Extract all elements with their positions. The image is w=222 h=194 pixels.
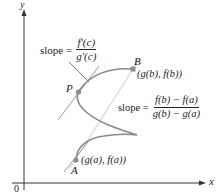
secant-slope-fraction: f(b) − f(a) g(b) − g(a) [152, 95, 201, 119]
point-b-marker [131, 67, 136, 72]
secant-slope-prefix: slope = [118, 102, 149, 113]
point-p-marker [76, 89, 81, 94]
tangent-annotation-pointer [69, 62, 89, 82]
tangent-slope-annotation: slope = f′(c) g′(c) [40, 37, 97, 62]
secant-slope-annotation: slope = f(b) − f(a) g(b) − g(a) [118, 95, 201, 119]
point-a-coordinates: (g(a), f(a)) [81, 155, 126, 166]
secant-slope-denominator: g(b) − g(a) [152, 108, 201, 120]
point-p-label: P [66, 83, 73, 94]
tangent-slope-denominator: g′(c) [75, 50, 97, 62]
origin-label: 0 [14, 184, 19, 194]
tangent-slope-prefix: slope = [40, 44, 72, 56]
y-axis-label: y [20, 0, 24, 10]
y-axis-arrow-icon [22, 9, 27, 16]
x-axis-label: x [209, 176, 214, 187]
point-b-label: B [134, 56, 141, 67]
tangent-slope-numerator: f′(c) [76, 37, 96, 50]
point-b-coordinates: (g(b), f(b)) [137, 69, 182, 80]
x-axis-arrow-icon [199, 181, 206, 186]
point-a-label: A [71, 165, 78, 176]
tangent-slope-fraction: f′(c) g′(c) [75, 37, 97, 62]
point-a-marker [73, 157, 78, 162]
secant-slope-numerator: f(b) − f(a) [154, 95, 199, 108]
cauchy-mean-value-diagram: y x 0 P B (g(b), f(b)) A (g(a), f(a)) sl… [0, 0, 222, 194]
